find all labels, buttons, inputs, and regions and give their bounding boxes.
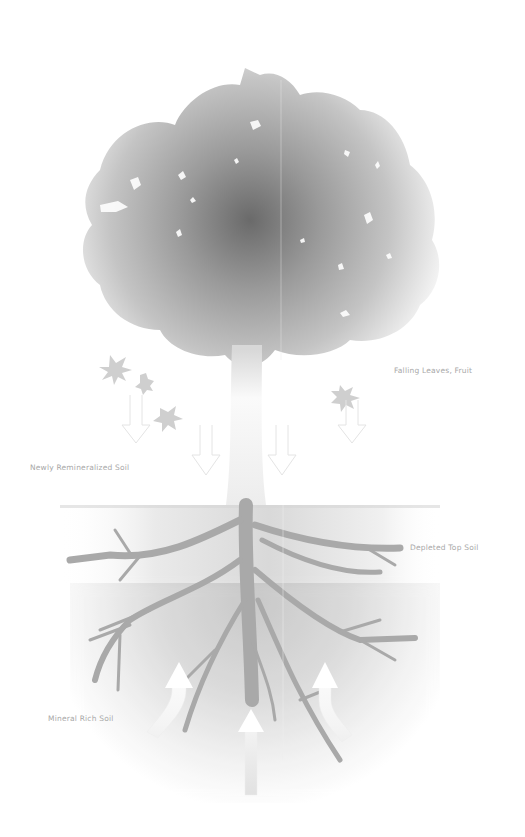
canopy bbox=[83, 68, 439, 366]
up-arrow-icon bbox=[245, 730, 257, 795]
trunk bbox=[226, 345, 266, 505]
tree-nutrient-diagram: Falling Leaves, Fruit Newly Remineralize… bbox=[0, 0, 525, 837]
falling-leaves bbox=[99, 355, 360, 432]
label-newly-remineralized: Newly Remineralized Soil bbox=[30, 463, 129, 473]
down-arrow-icon bbox=[122, 395, 150, 443]
tree-illustration bbox=[0, 0, 525, 837]
label-depleted-top-soil: Depleted Top Soil bbox=[410, 543, 479, 553]
label-falling-leaves: Falling Leaves, Fruit bbox=[394, 366, 472, 376]
label-mineral-rich-soil: Mineral Rich Soil bbox=[48, 714, 114, 724]
down-arrow-icon bbox=[192, 425, 220, 475]
down-arrow-icon bbox=[268, 425, 296, 475]
